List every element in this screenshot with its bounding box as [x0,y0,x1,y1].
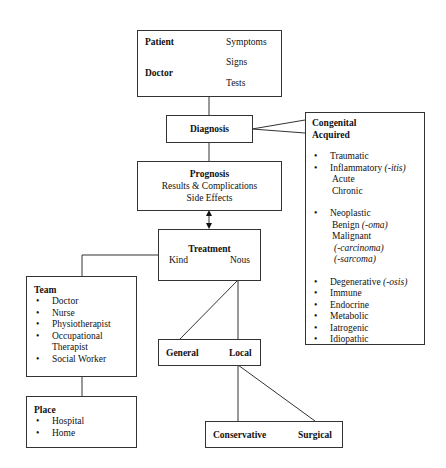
team-title: Team [34,284,136,296]
kind-label: Kind [169,254,188,266]
diagnosis-label: Diagnosis [166,123,253,135]
prognosis-box: Prognosis Results & Complications Side E… [137,161,282,211]
prognosis-title: Prognosis [138,168,281,180]
local-label: Local [229,347,252,359]
acquired-label: Acquired [312,129,424,141]
sarcoma-label: (-sarcoma) [312,254,424,266]
list-item: •Physiotherapist [34,319,136,331]
list-item: •Doctor [34,296,136,308]
symptoms-label: Symptoms [226,36,267,48]
prognosis-line1: Results & Complications [138,180,281,192]
etiology-list-2: •Degenerative (-osis) •Immune •Endocrine… [312,277,424,346]
patient-label: Patient [145,36,174,48]
list-item: •Traumatic [312,151,424,163]
list-item: •Degenerative (-osis) [312,277,424,289]
list-item: •Inflammatory (-itis) [312,163,424,175]
carcinoma-label: (-carcinoma) [312,243,424,255]
doctor-label: Doctor [145,67,173,79]
list-item: •Home [34,428,136,440]
list-item: •Immune [312,288,424,300]
list-item: •Idiopathic [312,334,424,346]
nous-label: Nous [230,254,250,266]
team-box: Team •Doctor •Nurse •Physiotherapist •Oc… [26,276,137,377]
chronic-label: Chronic [312,186,424,198]
list-item: •Neoplastic [312,208,424,220]
list-item: •Occupational [34,331,136,343]
list-item: •Hospital [34,416,136,428]
place-list: •Hospital •Home [34,416,136,439]
signs-label: Signs [226,56,247,68]
place-title: Place [34,404,136,416]
congenital-label: Congenital [312,117,424,129]
neoplastic-list: •Neoplastic [312,208,424,220]
conservative-label: Conservative [213,429,266,441]
acute-label: Acute [312,174,424,186]
team-list: •Doctor •Nurse •Physiotherapist •Occupat… [34,296,136,365]
etiology-list: •Traumatic •Inflammatory (-itis) [312,151,424,174]
list-item: •Social Worker [34,354,136,366]
benign-label: Benign (-oma) [312,220,424,232]
malignant-label: Malignant [312,231,424,243]
etiology-box: Congenital Acquired •Traumatic •Inflamma… [305,112,425,345]
list-item: •Nurse [34,308,136,320]
prognosis-line2: Side Effects [138,192,281,204]
tests-label: Tests [226,77,245,89]
list-item: •Iatrogenic [312,323,424,335]
general-label: General [166,347,199,359]
surgical-label: Surgical [298,429,332,441]
list-item: •Metabolic [312,311,424,323]
place-box: Place •Hospital •Home [26,396,137,448]
list-item: Therapist [34,342,136,354]
list-item: •Endocrine [312,300,424,312]
